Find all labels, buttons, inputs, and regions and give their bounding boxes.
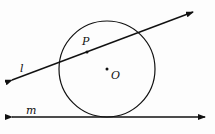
point-o — [106, 68, 109, 71]
label-m: m — [26, 104, 36, 117]
label-o: O — [111, 69, 120, 82]
label-l: l — [20, 62, 24, 75]
geometry-diagram: P O l m — [0, 0, 215, 134]
line-l — [12, 12, 193, 80]
label-p: P — [82, 35, 89, 48]
point-p — [86, 51, 89, 54]
